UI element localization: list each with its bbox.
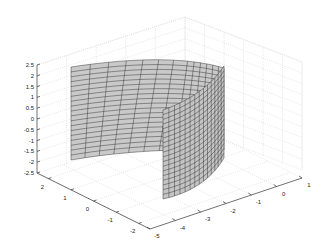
y-tick-label: -1 xyxy=(256,199,262,205)
z-tick-label: -0.5 xyxy=(24,127,35,133)
z-tick-label: 1 xyxy=(31,94,35,100)
z-tick-label: -2 xyxy=(29,159,35,165)
z-tick-label: 0 xyxy=(31,116,35,122)
z-tick-label: 2 xyxy=(31,73,35,79)
y-tick-label: -5 xyxy=(154,233,160,239)
z-tick-label: 0.5 xyxy=(26,105,35,111)
z-axis-ticks: 2.521.510.50-0.5-1-1.5-2-2.5 xyxy=(24,62,40,176)
y-tick-label: 1 xyxy=(307,182,311,188)
x-tick-label: 0 xyxy=(86,206,90,212)
z-tick-label: -2.5 xyxy=(24,170,35,176)
surface-plot: 2.521.510.50-0.5-1-1.5-2-2.5 210-1-2 -5-… xyxy=(0,0,323,246)
x-axis-ticks: 210-1-2 xyxy=(41,178,142,235)
x-tick-label: -2 xyxy=(130,228,136,234)
y-tick-label: 0 xyxy=(282,191,286,197)
x-tick-label: 1 xyxy=(63,195,67,201)
z-tick-label: -1 xyxy=(29,138,35,144)
y-tick-label: -4 xyxy=(180,225,186,231)
y-tick-label: -2 xyxy=(230,208,236,214)
z-tick-label: -1.5 xyxy=(24,148,35,154)
z-tick-label: 1.5 xyxy=(26,84,35,90)
y-tick-label: -3 xyxy=(205,216,211,222)
z-tick-label: 2.5 xyxy=(26,62,35,68)
x-tick-label: 2 xyxy=(41,184,45,190)
x-tick-label: -1 xyxy=(107,217,113,223)
